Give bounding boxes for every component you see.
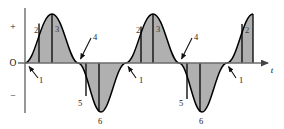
label-2-cycle2: 2: [136, 25, 140, 35]
label-5-cycle1: 5: [78, 98, 82, 108]
label-4-cycle2: 4: [194, 32, 199, 42]
waveform-svg: + O − t 1 2 3 4 5 6 1 2 3 4 5 6: [0, 0, 284, 129]
label-3-cycle2: 3: [156, 24, 160, 34]
axis-origin-label: O: [10, 58, 17, 68]
arrow-4-cycle1: [81, 38, 92, 59]
label-4-cycle1: 4: [93, 32, 98, 42]
label-2-cycle1: 2: [34, 25, 38, 35]
arrow-1-cycle1: [29, 67, 38, 79]
t-axis-label: t: [271, 65, 274, 75]
label-1-cycle1: 1: [39, 75, 43, 85]
axis-plus-label: +: [10, 22, 15, 32]
label-3-cycle1: 3: [55, 24, 59, 34]
label-6-cycle2: 6: [199, 116, 203, 126]
label-5-cycle2: 5: [179, 98, 183, 108]
negative-lobe-fills: [78, 63, 227, 112]
waveform-figure: + O − t 1 2 3 4 5 6 1 2 3 4 5 6: [0, 0, 284, 129]
label-2-cycle3: 2: [245, 25, 249, 35]
label-6-cycle1: 6: [98, 116, 102, 126]
label-1-cycle3: 1: [239, 75, 243, 85]
label-1-cycle2: 1: [139, 75, 143, 85]
axis-minus-label: −: [10, 91, 15, 101]
